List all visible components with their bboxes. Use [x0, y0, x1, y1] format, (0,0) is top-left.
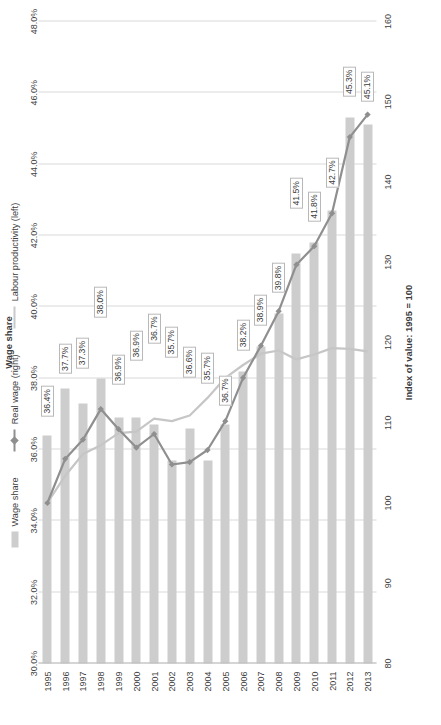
primary-axis-ticks: 8090100110120130140150160Index of value:…: [380, 21, 410, 663]
secondary-tick-label: 48.0%: [28, 8, 38, 34]
category-label: 2005: [220, 671, 230, 691]
data-label: 37.7%: [58, 343, 71, 373]
data-label: 36.4%: [40, 386, 53, 416]
data-label: 38.0%: [94, 286, 107, 316]
rotated-chart-wrapper: Wage shareReal wage (right)Labour produc…: [0, 0, 441, 725]
data-label: 36.9%: [129, 330, 142, 360]
secondary-tick-label: 40.0%: [28, 294, 38, 320]
category-label: 2006: [238, 671, 248, 691]
primary-tick-label: 120: [382, 334, 392, 349]
primary-axis-title: Index of value: 1995 = 100: [402, 284, 413, 399]
category-label: 2008: [273, 671, 283, 691]
data-label: 42.7%: [325, 157, 338, 187]
plot-area: 36.4%37.7%37.3%38.0%36.9%36.9%36.7%35.7%…: [38, 21, 376, 663]
category-label: 2004: [202, 671, 212, 691]
category-label: 2007: [255, 671, 265, 691]
secondary-tick-label: 44.0%: [28, 151, 38, 177]
primary-tick-label: 100: [382, 495, 392, 510]
data-label: 35.7%: [165, 327, 178, 357]
category-label: 1996: [60, 671, 70, 691]
category-label: 2011: [327, 671, 337, 690]
data-label: 36.7%: [218, 375, 231, 405]
category-label: 2009: [291, 671, 301, 691]
data-label: 36.6%: [183, 346, 196, 376]
category-label: 2003: [184, 671, 194, 691]
secondary-tick-label: 46.0%: [28, 80, 38, 106]
data-label: 37.3%: [76, 337, 89, 367]
data-label: 36.7%: [147, 313, 160, 343]
data-label: 41.8%: [307, 191, 320, 221]
data-label: 45.1%: [361, 71, 374, 101]
category-label: 2001: [149, 671, 159, 691]
data-label: 36.9%: [112, 354, 125, 384]
secondary-axis-title: Wage share: [2, 316, 13, 368]
secondary-tick-label: 38.0%: [28, 365, 38, 391]
data-label: 35.7%: [201, 353, 214, 383]
category-label: 1999: [113, 671, 123, 691]
secondary-tick-label: 34.0%: [28, 508, 38, 534]
category-label: 2010: [309, 671, 319, 691]
secondary-tick-label: 42.0%: [28, 222, 38, 248]
category-label: 2002: [166, 671, 176, 691]
secondary-tick-label: 36.0%: [28, 436, 38, 462]
category-label: 1995: [42, 671, 52, 691]
primary-tick-label: 150: [382, 94, 392, 109]
category-label: 2012: [344, 671, 354, 691]
primary-tick-label: 90: [382, 578, 392, 588]
data-label: 41.5%: [289, 178, 302, 208]
data-label: 39.8%: [272, 262, 285, 292]
category-label: 1998: [95, 671, 105, 691]
primary-tick-label: 140: [382, 174, 392, 189]
chart-root: Wage shareReal wage (right)Labour produc…: [0, 0, 441, 725]
data-label: 38.2%: [236, 319, 249, 349]
secondary-tick-label: 32.0%: [28, 579, 38, 605]
primary-tick-label: 160: [382, 13, 392, 28]
category-axis-labels: 1995199619971998199920002001200220032004…: [38, 665, 376, 725]
data-label: 38.9%: [254, 294, 267, 324]
category-label: 2013: [362, 671, 372, 691]
value-axis-line: [38, 662, 376, 663]
secondary-tick-label: 30.0%: [28, 650, 38, 676]
primary-tick-label: 80: [382, 658, 392, 668]
category-label: 2000: [131, 671, 141, 691]
category-label: 1997: [77, 671, 87, 691]
primary-tick-label: 110: [382, 415, 392, 429]
data-label: 45.3%: [343, 66, 356, 96]
secondary-axis-ticks: 30.0%32.0%34.0%36.0%38.0%40.0%42.0%44.0%…: [8, 21, 38, 663]
primary-tick-label: 130: [382, 254, 392, 269]
